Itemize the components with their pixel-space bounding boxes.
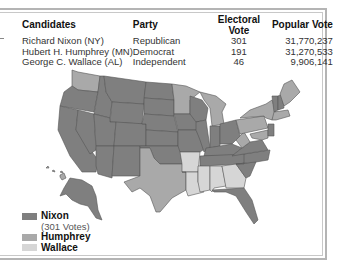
nixon-swatch (22, 213, 37, 220)
state-me (280, 80, 300, 106)
state-in (210, 126, 220, 148)
humphrey-swatch (22, 234, 37, 241)
legend-item-wallace: Wallace (22, 243, 90, 254)
wallace-swatch (22, 244, 37, 251)
state-nm (112, 146, 140, 176)
legend-label-humphrey: Humphrey (41, 232, 90, 243)
state-ar (180, 152, 200, 172)
legend-label-wallace: Wallace (41, 243, 78, 254)
state-ks (146, 130, 178, 146)
state-wy (110, 102, 144, 124)
legend-item-nixon: Nixon (22, 211, 90, 222)
state-ne (142, 114, 178, 132)
state-fl (212, 188, 258, 224)
state-sd (144, 98, 174, 116)
legend-item-humphrey: Humphrey (22, 232, 90, 243)
state-ms (198, 166, 210, 192)
legend-label-nixon: Nixon (41, 211, 69, 222)
state-nd (144, 82, 174, 100)
state-az (96, 146, 114, 178)
state-nj (268, 124, 274, 136)
state-co (114, 122, 146, 146)
state-hi (46, 166, 66, 180)
map-legend: Nixon (301 Votes) Humphrey Wallace (22, 211, 90, 253)
